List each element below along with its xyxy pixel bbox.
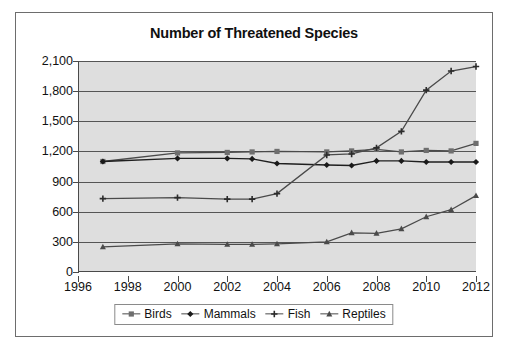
data-point	[473, 159, 479, 165]
legend-label: Birds	[144, 307, 171, 321]
chart-title: Number of Threatened Species	[16, 25, 492, 41]
plot-region	[78, 61, 476, 272]
x-tick-mark	[128, 276, 129, 282]
data-point	[175, 150, 180, 155]
x-tick-mark	[476, 276, 477, 282]
y-tick-label: 900	[21, 175, 73, 189]
y-tick-label: 300	[21, 235, 73, 249]
data-point	[174, 194, 180, 200]
x-tick-label: 1998	[114, 280, 142, 294]
legend-label: Fish	[288, 307, 311, 321]
series-birds	[100, 141, 478, 164]
data-point	[449, 148, 454, 153]
y-tick-label: 600	[21, 205, 73, 219]
legend-marker-triangle-icon	[320, 309, 338, 319]
chart-figure: Number of Threatened Species 03006009001…	[15, 12, 493, 337]
legend-label: Mammals	[204, 307, 256, 321]
data-point	[424, 148, 429, 153]
data-point	[473, 192, 479, 198]
legend-label: Reptiles	[342, 307, 385, 321]
legend-item-birds[interactable]: Birds	[122, 307, 171, 321]
data-point	[100, 195, 106, 201]
chart-legend: BirdsMammalsFishReptiles	[114, 304, 393, 325]
x-tick-mark	[327, 276, 328, 282]
y-tick-label: 2,100	[21, 54, 73, 68]
series-mammals	[100, 155, 479, 168]
x-axis: 199619982000200220042006200820102012	[78, 276, 476, 298]
series-line	[103, 67, 476, 200]
data-point	[399, 149, 404, 154]
legend-marker-plus-icon	[266, 309, 284, 319]
data-point	[225, 150, 230, 155]
series-layer	[78, 61, 476, 272]
data-point	[274, 160, 280, 166]
x-tick-mark	[78, 276, 79, 282]
x-tick-mark	[277, 276, 278, 282]
data-point	[473, 141, 478, 146]
x-tick-mark	[178, 276, 179, 282]
data-point	[473, 63, 479, 69]
data-point	[249, 156, 255, 162]
y-tick-label: 1,800	[21, 84, 73, 98]
legend-item-fish[interactable]: Fish	[266, 307, 311, 321]
y-tick-label: 0	[21, 265, 73, 279]
data-point	[274, 149, 279, 154]
y-tick-label: 1,500	[21, 114, 73, 128]
data-point	[423, 159, 429, 165]
x-tick-label: 2000	[164, 280, 192, 294]
data-point	[224, 196, 230, 202]
y-tick-label: 1,200	[21, 144, 73, 158]
data-point	[373, 158, 379, 164]
legend-marker-square-icon	[122, 309, 140, 319]
legend-item-reptiles[interactable]: Reptiles	[320, 307, 385, 321]
data-point	[224, 155, 230, 161]
data-point	[349, 162, 355, 168]
x-tick-mark	[377, 276, 378, 282]
x-tick-mark	[227, 276, 228, 282]
series-line	[103, 158, 476, 165]
data-point	[448, 159, 454, 165]
x-tick-label: 2008	[363, 280, 391, 294]
data-point	[324, 162, 330, 168]
data-point	[398, 158, 404, 164]
x-tick-label: 2004	[263, 280, 291, 294]
legend-item-mammals[interactable]: Mammals	[182, 307, 256, 321]
data-point	[174, 155, 180, 161]
x-tick-label: 2012	[462, 280, 490, 294]
data-point	[250, 149, 255, 154]
x-tick-label: 2006	[313, 280, 341, 294]
x-tick-label: 2002	[213, 280, 241, 294]
x-tick-mark	[426, 276, 427, 282]
series-fish	[100, 63, 480, 202]
series-reptiles	[100, 192, 479, 249]
legend-marker-diamond-icon	[182, 309, 200, 319]
x-tick-label: 2010	[412, 280, 440, 294]
series-line	[103, 196, 476, 247]
data-point	[249, 196, 255, 202]
y-tick-mark	[73, 272, 79, 273]
x-tick-label: 1996	[64, 280, 92, 294]
y-axis: 03006009001,2001,5001,8002,100	[16, 61, 73, 272]
data-point	[448, 207, 454, 213]
